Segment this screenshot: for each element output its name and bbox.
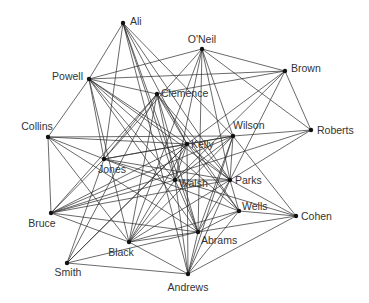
node-label-smith: Smith: [55, 266, 82, 278]
node-label-kelly: Kelly: [191, 138, 215, 150]
node-label-powell: Powell: [52, 70, 83, 82]
edge-collins-bruce: [48, 137, 51, 213]
node-label-wells: Wells: [242, 200, 267, 212]
edge-layer: [48, 23, 311, 274]
edge-oneil-powell: [89, 49, 202, 79]
node-parks: [228, 178, 232, 182]
node-smith: [65, 261, 69, 265]
node-kelly: [185, 142, 189, 146]
node-label-walsh: Walsh: [179, 177, 208, 189]
node-label-parks: Parks: [235, 174, 262, 186]
edge-brown-roberts: [285, 71, 311, 130]
node-abrams: [196, 230, 200, 234]
network-graph: AliO'NeilBrownPowellClemenceCollinsRober…: [0, 0, 369, 303]
node-wells: [237, 209, 241, 213]
edge-powell-jones: [89, 79, 104, 159]
node-black: [127, 240, 131, 244]
node-label-collins: Collins: [21, 120, 53, 132]
edge-walsh-bruce: [51, 180, 175, 213]
node-walsh: [173, 178, 177, 182]
node-oneil: [200, 47, 204, 51]
node-powell: [87, 77, 91, 81]
node-label-abrams: Abrams: [201, 234, 237, 246]
node-clemence: [155, 92, 159, 96]
edge-smith-andrews: [67, 263, 188, 274]
edge-ali-powell: [89, 23, 123, 79]
node-brown: [283, 69, 287, 73]
node-label-bruce: Bruce: [28, 217, 56, 229]
node-jones: [102, 157, 106, 161]
edge-bruce-black: [51, 213, 129, 242]
node-label-brown: Brown: [291, 62, 321, 74]
node-bruce: [49, 211, 53, 215]
edge-collins-wilson: [48, 136, 233, 137]
node-wilson: [231, 134, 235, 138]
edge-clemence-bruce: [51, 94, 157, 213]
edge-ali-abrams: [123, 23, 198, 232]
node-collins: [46, 135, 50, 139]
node-label-oneil: O'Neil: [188, 33, 216, 45]
edge-ali-walsh: [123, 23, 175, 180]
edge-powell-collins: [48, 79, 89, 137]
edge-oneil-brown: [202, 49, 285, 71]
node-label-cohen: Cohen: [301, 210, 332, 222]
node-layer: [46, 21, 313, 276]
node-label-black: Black: [108, 246, 134, 258]
node-cohen: [294, 214, 298, 218]
node-label-roberts: Roberts: [317, 124, 354, 136]
node-andrews: [186, 272, 190, 276]
node-label-ali: Ali: [130, 15, 142, 27]
edge-roberts-parks: [230, 130, 311, 180]
node-roberts: [309, 128, 313, 132]
node-label-wilson: Wilson: [233, 119, 265, 131]
edge-brown-powell: [89, 71, 285, 79]
node-label-clemence: Clemence: [161, 87, 208, 99]
edge-clemence-parks: [157, 94, 230, 180]
edge-walsh-black: [129, 180, 175, 242]
node-ali: [121, 21, 125, 25]
edge-bruce-abrams: [51, 213, 198, 232]
node-label-jones: Jones: [98, 163, 126, 175]
node-label-andrews: Andrews: [168, 281, 209, 293]
edge-oneil-walsh: [175, 49, 202, 180]
